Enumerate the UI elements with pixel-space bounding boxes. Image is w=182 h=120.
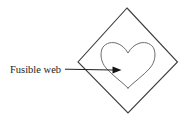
figure-root: Fusible web — [0, 0, 182, 120]
diagram-canvas: Fusible web — [0, 0, 182, 120]
fusible-web-label: Fusible web — [10, 64, 61, 75]
